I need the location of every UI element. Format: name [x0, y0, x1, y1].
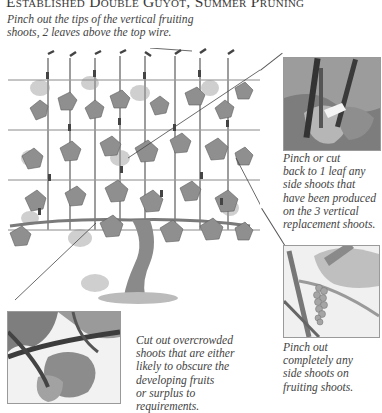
caption-line: developing fruits: [136, 374, 234, 387]
caption-overcrowded-shoots: Cut out overcrowded shoots that are eith…: [136, 334, 234, 413]
caption-line: requirements.: [136, 400, 234, 413]
caption-line: on the 3 vertical: [283, 205, 376, 218]
photo-side-shoot-leaf: [283, 57, 381, 151]
grapevine-illustration: [0, 48, 260, 308]
caption-top: Pinch out the tips of the vertical fruit…: [7, 13, 193, 39]
caption-line: replacement shoots.: [283, 218, 376, 231]
caption-line: side shoots on: [283, 367, 353, 380]
caption-line: shoots, 2 leaves above the top wire.: [7, 26, 193, 39]
caption-line: likely to obscure the: [136, 360, 234, 373]
photo-hand-pinching-grapes: [283, 245, 380, 338]
caption-line: Pinch or cut: [283, 152, 376, 165]
caption-line: side shoots that: [283, 178, 376, 191]
caption-line: completely any: [283, 354, 353, 367]
caption-line: shoots that are either: [136, 347, 234, 360]
leader-line-upper-right: [260, 53, 283, 71]
caption-side-shoots-replacement: Pinch or cut back to 1 leaf any side sho…: [283, 152, 376, 231]
caption-line: Pinch out the tips of the vertical fruit…: [7, 13, 193, 26]
caption-line: or surplus to: [136, 387, 234, 400]
caption-line: back to 1 leaf any: [283, 165, 376, 178]
caption-line: fruiting shoots.: [283, 381, 353, 394]
page-title: Established Double Guyot, Summer Pruning: [6, 0, 304, 11]
caption-fruiting-side-shoots: Pinch out completely any side shoots on …: [283, 341, 353, 394]
caption-line: Cut out overcrowded: [136, 334, 234, 347]
caption-line: Pinch out: [283, 341, 353, 354]
caption-line: have been produced: [283, 192, 376, 205]
photo-overcrowded-shoots: [7, 311, 121, 404]
